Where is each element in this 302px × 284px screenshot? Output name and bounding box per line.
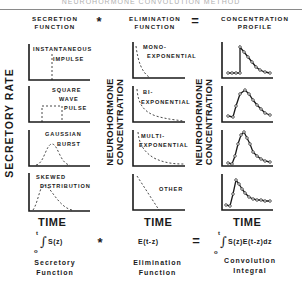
elimination-panel-other bbox=[132, 174, 188, 214]
caption-line: Function bbox=[20, 268, 90, 278]
secretion-label-skewed-2: DISTRIBUTION bbox=[40, 183, 91, 189]
axis-label-line: CONCENTRATION bbox=[115, 57, 125, 187]
secretory-integral-body: S(z) bbox=[48, 238, 63, 245]
time-label-elimination: TIME bbox=[144, 216, 172, 228]
secretion-label-skewed-1: SKEWED bbox=[36, 174, 66, 180]
secretory-integral-lower: o bbox=[34, 248, 38, 254]
secretory-rate-axis-label: SECRETORY RATE bbox=[3, 58, 17, 188]
time-label-concentration: TIME bbox=[233, 216, 261, 228]
caption-line: Integral bbox=[210, 266, 290, 276]
header-concentration-profile: CONCENTRATION PROFILE bbox=[210, 15, 300, 31]
caption-line: Function bbox=[120, 268, 195, 278]
concentration-panel-square bbox=[221, 86, 277, 126]
convolution-integral-lower: o bbox=[214, 249, 218, 255]
elimination-label-multi-2: EXPONENTIAL bbox=[139, 142, 189, 148]
header-line: SECRETION bbox=[20, 15, 90, 23]
caption-secretory-function: Secretory Function bbox=[20, 258, 90, 278]
secretion-label-gaussian-1: GAUSSIAN bbox=[45, 131, 82, 137]
caption-elimination-function: Elimination Function bbox=[120, 258, 195, 278]
neurohormone-concentration-axis-label-1: NEUROHORMONE CONCENTRATION bbox=[105, 57, 129, 187]
integral-sign-icon: ∫ bbox=[220, 234, 227, 249]
axis-label-line: CONCENTRATION bbox=[204, 57, 214, 187]
header-line: PROFILE bbox=[210, 23, 300, 31]
elimination-label-mono-1: MONO- bbox=[143, 44, 167, 50]
convolve-operator: * bbox=[92, 14, 106, 29]
secretion-label-impulse-2: IMPULSE bbox=[53, 56, 84, 62]
formula-equals-operator: = bbox=[189, 233, 203, 248]
header-elimination-function: ELIMINATION FUNCTION bbox=[115, 15, 195, 31]
header-divider bbox=[0, 9, 302, 10]
neurohormone-concentration-axis-label-2: NEUROHORMONE CONCENTRATION bbox=[194, 57, 218, 187]
header-secretion-function: SECRETION FUNCTION bbox=[20, 15, 90, 31]
elimination-label-multi-1: MULTI- bbox=[141, 133, 165, 139]
time-label-secretion: TIME bbox=[38, 216, 66, 228]
concentration-panel-skewed bbox=[221, 174, 277, 214]
page-title-partial: NEUROHORMONE CONVOLUTION METHOD bbox=[0, 0, 302, 8]
secretion-label-gaussian-2: BURST bbox=[57, 141, 81, 147]
elimination-label-bi-1: BI- bbox=[143, 89, 153, 95]
elimination-label-bi-2: EXPONENTIAL bbox=[141, 99, 191, 105]
secretory-integral-upper: t bbox=[36, 230, 39, 236]
secretion-label-square-3: PULSE bbox=[64, 105, 87, 111]
header-line: FUNCTION bbox=[115, 23, 195, 31]
concentration-panel-impulse bbox=[221, 42, 277, 82]
concentration-panel-gaussian bbox=[221, 130, 277, 170]
elimination-label-mono-2: EXPONENTIAL bbox=[147, 53, 197, 59]
caption-convolution-integral: Convolution Integral bbox=[210, 256, 290, 276]
caption-line: Elimination bbox=[120, 258, 195, 268]
equals-operator: = bbox=[188, 13, 202, 28]
elimination-label-other: OTHER bbox=[159, 186, 183, 192]
caption-line: Convolution bbox=[210, 256, 290, 266]
elimination-formula: E(t-z) bbox=[138, 238, 159, 245]
secretion-label-square-2: WAVE bbox=[59, 96, 79, 102]
header-line: CONCENTRATION bbox=[210, 15, 300, 23]
integral-sign-icon: ∫ bbox=[40, 234, 47, 249]
secretion-label-square-1: SQUARE bbox=[52, 87, 81, 93]
formula-convolve-operator: * bbox=[93, 235, 107, 250]
convolution-integral-body: S(z)E(t-z)dz bbox=[228, 238, 272, 245]
header-line: FUNCTION bbox=[20, 23, 90, 31]
elimination-panel-bi-exponential bbox=[132, 86, 188, 126]
secretion-label-impulse-1: INSTANTANEOUS bbox=[33, 46, 92, 52]
header-line: ELIMINATION bbox=[115, 15, 195, 23]
caption-line: Secretory bbox=[20, 258, 90, 268]
